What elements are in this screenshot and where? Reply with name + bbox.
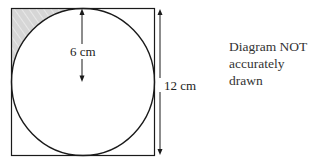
- square: [12, 9, 155, 156]
- disclaimer-line-2: accurately drawn: [229, 55, 317, 89]
- side-length-label: 12 cm: [164, 78, 196, 93]
- disclaimer-note: Diagram NOT accurately drawn: [229, 38, 317, 89]
- inscribed-circle: [12, 9, 155, 156]
- disclaimer-line-1: Diagram NOT: [229, 38, 317, 55]
- radius-label: 6 cm: [69, 44, 97, 59]
